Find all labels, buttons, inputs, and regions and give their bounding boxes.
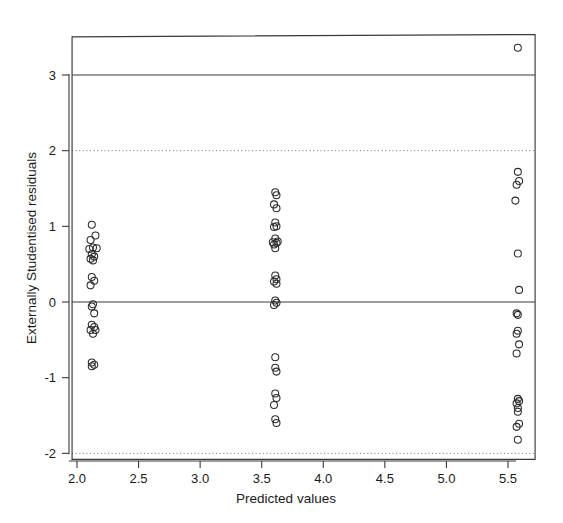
- data-point: [514, 44, 521, 51]
- y-tick-label: 1: [49, 219, 56, 234]
- x-tick-label: 4.5: [376, 471, 394, 486]
- y-tick-label: 2: [49, 143, 56, 158]
- x-tick-label: 3.5: [253, 471, 271, 486]
- data-point: [512, 197, 519, 204]
- y-axis-title: Externally Studentised residuals: [24, 152, 39, 344]
- data-point: [514, 250, 521, 257]
- y-tick-label: 0: [49, 295, 56, 310]
- plot-border: [72, 34, 535, 459]
- x-tick-label: 2.5: [130, 471, 148, 486]
- x-tick-label: 5.5: [499, 471, 517, 486]
- x-tick-label: 5.0: [437, 471, 455, 486]
- data-point: [87, 236, 94, 243]
- data-point: [514, 436, 521, 443]
- data-point: [516, 341, 523, 348]
- data-point: [88, 221, 95, 228]
- data-point: [516, 286, 523, 293]
- data-point: [87, 282, 94, 289]
- x-tick-labels: 2.02.53.03.54.04.55.05.5: [68, 471, 517, 486]
- data-points-group: [86, 44, 523, 443]
- x-tick-label: 4.0: [314, 471, 332, 486]
- data-point: [272, 390, 279, 397]
- data-point: [273, 395, 280, 402]
- data-point: [514, 168, 521, 175]
- axes-group: [69, 74, 516, 461]
- y-tick-labels: -2-10123: [44, 68, 56, 461]
- data-point: [513, 350, 520, 357]
- x-axis-title: Predicted values: [236, 491, 336, 506]
- x-tick-label: 3.0: [191, 471, 209, 486]
- scatter-plot-canvas: 2.02.53.03.54.04.55.05.5 -2-10123 Predic…: [0, 0, 563, 523]
- y-tick-label: -2: [44, 446, 56, 461]
- data-point: [272, 354, 279, 361]
- y-tick-label: 3: [49, 68, 56, 83]
- tick-marks-group: [62, 75, 508, 468]
- data-point: [271, 401, 278, 408]
- residual-plot-figure: 2.02.53.03.54.04.55.05.5 -2-10123 Predic…: [0, 0, 563, 523]
- y-tick-label: -1: [44, 370, 56, 385]
- data-point: [91, 310, 98, 317]
- reference-lines-group: [72, 75, 535, 453]
- data-point: [88, 303, 95, 310]
- plot-box: [72, 34, 535, 459]
- x-tick-label: 2.0: [68, 471, 86, 486]
